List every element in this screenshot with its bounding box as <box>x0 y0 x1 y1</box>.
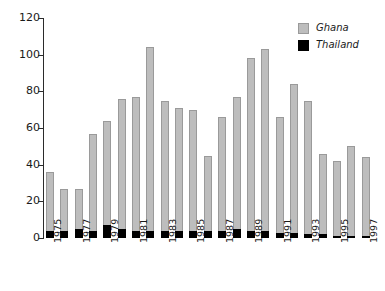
y-axis-tick <box>38 18 44 19</box>
bar-group <box>117 18 131 238</box>
bar-group <box>232 18 246 238</box>
bar-group <box>102 18 116 238</box>
y-axis-labels: 020406080100120 <box>0 0 40 291</box>
x-axis-tick-label: 1983 <box>168 219 178 243</box>
y-axis-tick <box>38 55 44 56</box>
bar-group <box>74 18 88 238</box>
bar-group <box>275 18 289 238</box>
bar-ghana <box>261 49 269 238</box>
x-axis-tick-label: 1993 <box>311 219 321 243</box>
bar-group <box>203 18 217 238</box>
x-axis-labels: 1975197719791981198319851987198919911993… <box>44 241 374 291</box>
bar-group <box>45 18 59 238</box>
y-axis-tick-label: 100 <box>4 49 40 60</box>
legend-label-thailand: Thailand <box>316 40 359 50</box>
x-axis-tick-label: 1991 <box>283 219 293 243</box>
legend-item-thailand: Thailand <box>298 39 382 51</box>
bar-group <box>59 18 73 238</box>
bar-ghana <box>132 97 140 238</box>
bar-group <box>145 18 159 238</box>
legend-swatch-thailand <box>298 40 309 51</box>
bar-ghana <box>161 101 169 239</box>
legend-item-ghana: Ghana <box>298 22 382 34</box>
x-axis-tick-label: 1989 <box>254 219 264 243</box>
bar-group <box>174 18 188 238</box>
legend: Ghana Thailand <box>298 22 382 56</box>
x-axis-tick-label: 1995 <box>340 219 350 243</box>
x-axis-tick-label: 1975 <box>53 219 63 243</box>
bar-ghana <box>233 97 241 238</box>
bar-group <box>160 18 174 238</box>
y-axis-tick <box>38 165 44 166</box>
y-axis-tick-label: 0 <box>4 232 40 243</box>
bar-group <box>260 18 274 238</box>
bar-group <box>88 18 102 238</box>
bar-group <box>131 18 145 238</box>
legend-label-ghana: Ghana <box>316 23 349 33</box>
y-axis-tick <box>38 238 44 239</box>
bar-ghana <box>290 84 298 238</box>
bar-group <box>188 18 202 238</box>
y-axis-tick-label: 60 <box>4 122 40 133</box>
y-axis-tick-label: 80 <box>4 85 40 96</box>
x-axis-tick-label: 1987 <box>225 219 235 243</box>
x-axis-tick-label: 1977 <box>82 219 92 243</box>
x-axis-tick-label: 1985 <box>196 219 206 243</box>
bar-ghana <box>304 101 312 239</box>
x-axis-tick-label: 1997 <box>369 219 379 243</box>
x-axis-tick-label: 1981 <box>139 219 149 243</box>
bar-chart: 020406080100120 197519771979198119831985… <box>0 0 385 291</box>
legend-swatch-ghana <box>298 23 309 34</box>
y-axis-tick-label: 120 <box>4 12 40 23</box>
y-axis-tick <box>38 128 44 129</box>
y-axis-tick <box>38 201 44 202</box>
bar-group <box>217 18 231 238</box>
y-axis-tick <box>38 91 44 92</box>
y-axis-tick-label: 40 <box>4 159 40 170</box>
bar-ghana <box>118 99 126 238</box>
x-axis-tick-label: 1979 <box>110 219 120 243</box>
bar-ghana <box>247 58 255 238</box>
y-axis-tick-label: 20 <box>4 195 40 206</box>
bar-ghana <box>146 47 154 238</box>
bar-group <box>246 18 260 238</box>
